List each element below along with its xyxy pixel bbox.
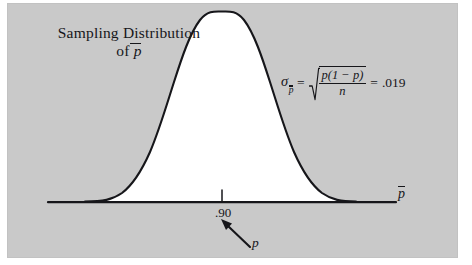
caption-of-word: of: [116, 42, 129, 59]
square-root-expression: p(1 − p) n: [309, 66, 367, 100]
fraction: p(1 − p) n: [319, 66, 367, 100]
overbar: [289, 85, 293, 86]
chart-caption: Sampling Distribution of p: [44, 24, 214, 61]
caption-line-1: Sampling Distribution: [44, 24, 214, 42]
sigma-symbol: σp: [281, 73, 293, 92]
figure-root: Sampling Distribution of p σp = p(1 − p)…: [0, 0, 472, 265]
population-proportion-label: p: [252, 235, 259, 251]
standard-error-formula: σp = p(1 − p) n = .019: [281, 66, 406, 100]
sigma-subscript-p-bar: p: [289, 85, 294, 95]
overbar: [130, 43, 140, 44]
standard-error-value: .019: [382, 75, 406, 91]
p-callout-arrow: [221, 219, 250, 247]
equals-sign-1: =: [297, 75, 305, 91]
radical-sign-icon: [309, 67, 320, 101]
overbar: [398, 186, 404, 187]
x-axis-tick-label: .90: [208, 205, 238, 221]
equals-sign-2: =: [370, 75, 378, 91]
fraction-numerator: p(1 − p): [319, 67, 367, 83]
x-axis-label-p-bar: p: [398, 186, 405, 202]
fraction-denominator: n: [319, 83, 367, 100]
caption-p-bar-symbol: p: [130, 42, 142, 60]
caption-line-2: of p: [44, 42, 214, 60]
